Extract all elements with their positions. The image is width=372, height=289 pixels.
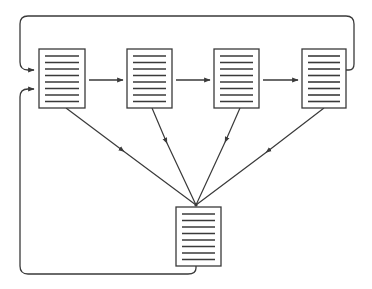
merge-arrow-doc3 — [196, 108, 240, 205]
document-icon — [214, 49, 259, 108]
document-icon — [39, 49, 85, 108]
merge-arrow-doc2 — [152, 108, 196, 205]
document-flow-diagram — [0, 0, 372, 289]
merged-document-icon — [176, 207, 221, 266]
document-icon — [127, 49, 172, 108]
merge-arrow-doc4 — [196, 108, 324, 205]
merge-arrow-doc1 — [66, 108, 196, 205]
document-icon — [302, 49, 346, 108]
feedback-loop-bottom — [20, 89, 196, 274]
